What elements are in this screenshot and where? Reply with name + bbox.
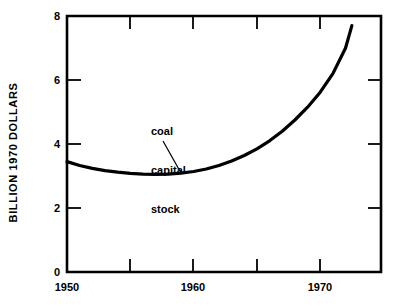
axis-frame	[67, 16, 381, 272]
y-axis-ticks-right	[368, 80, 381, 208]
series-line-coal-capital-stock	[67, 26, 352, 175]
chart-figure: BILLION 1970 DOLLARS 8 6 4 2 0 1950 1960…	[0, 0, 394, 305]
x-axis-ticks	[130, 259, 320, 272]
annotation-leader-line	[163, 141, 181, 173]
x-axis-ticks-top	[130, 16, 320, 29]
plot-area	[0, 0, 394, 305]
y-axis-ticks	[67, 80, 81, 208]
